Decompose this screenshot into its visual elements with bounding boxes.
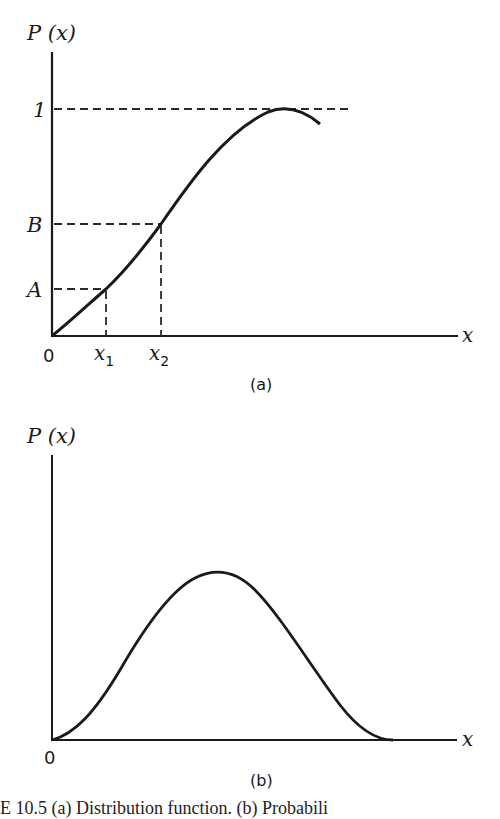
origin-label-a: 0 [43, 345, 54, 366]
y-axis-label-a: P (x) [26, 21, 76, 45]
y-tick-label-A: A [25, 278, 42, 302]
y-axis-label-b: P (x) [26, 424, 76, 448]
x-tick-label-x2: x2 [149, 341, 169, 369]
x-axis-label-b: x [462, 727, 473, 751]
panel-b: P (x) 0 x (b) [26, 424, 473, 790]
x-tick-label-x1: x1 [94, 341, 114, 369]
x-axis-label-a: x [462, 323, 473, 347]
cumulative-curve [52, 109, 320, 336]
panel-label-a: (a) [250, 375, 272, 394]
density-curve [52, 572, 393, 740]
panel-a: P (x) 1 B A 0 x1 x2 x (a) [25, 21, 473, 394]
figure-caption: E 10.5 (a) Distribution function. (b) Pr… [0, 798, 500, 819]
y-tick-label-B: B [26, 213, 42, 237]
panel-label-b: (b) [250, 771, 273, 790]
y-tick-label-one: 1 [33, 98, 46, 122]
origin-label-b: 0 [44, 747, 55, 768]
